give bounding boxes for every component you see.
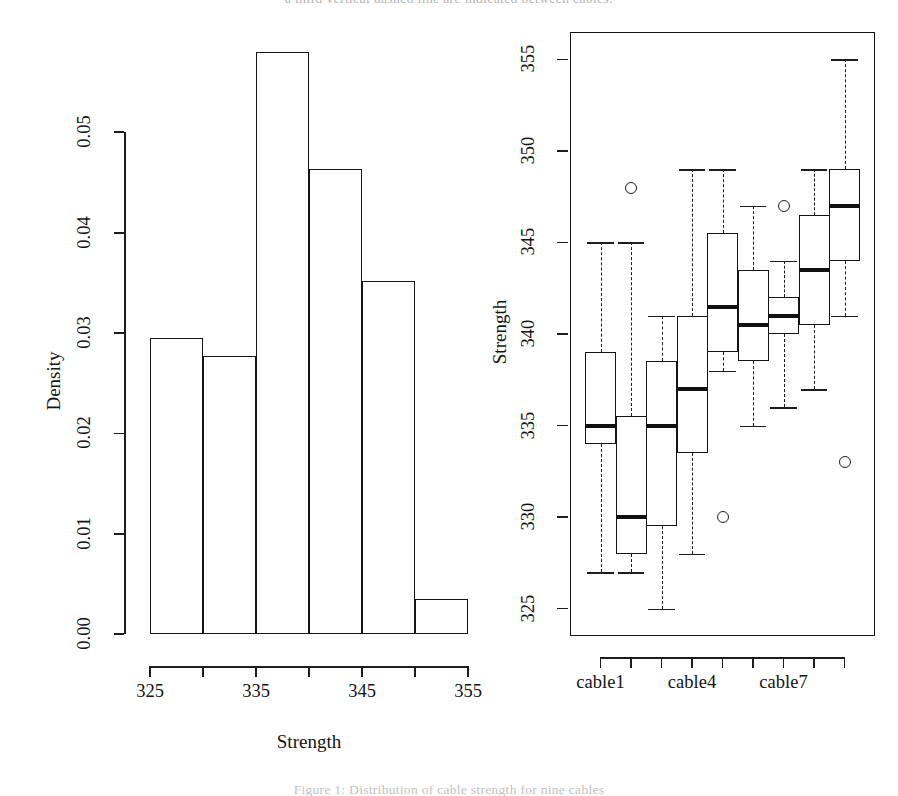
histogram-y-axis-line [124,132,126,634]
boxplot-x-tick [630,657,632,668]
boxplot-y-tick [557,242,568,244]
boxplot-outlier-point [839,456,851,468]
boxplot-x-tick [813,657,815,668]
boxplot-whisker-upper [692,169,693,315]
boxplot-whisker-lower [631,554,632,572]
boxplot-median-line [616,515,647,519]
boxplot-outlier-point [778,200,790,212]
boxplot-whisker-lower [601,444,602,572]
histogram-y-tick-label: 0.00 [74,608,95,660]
boxplot-whisker-cap-upper [679,169,705,171]
boxplot-whisker-upper [631,242,632,416]
boxplot-whisker-cap-lower [618,572,644,574]
histogram-x-tick-label: 335 [228,681,284,702]
boxplot-x-tick [691,657,693,668]
boxplot-whisker-cap-lower [587,572,613,574]
boxplot-whisker-cap-upper [740,206,766,208]
histogram-x-tick [149,666,151,677]
boxplot-median-line [768,314,799,318]
boxplot-whisker-lower [814,325,815,389]
histogram-y-tick-label: 0.01 [74,507,95,559]
boxplot-y-tick-label: 345 [518,219,539,265]
boxplot-box [646,361,677,526]
histogram-x-tick-label: 345 [334,681,390,702]
boxplot-whisker-cap-upper [770,261,796,263]
boxplot-whisker-cap-lower [740,426,766,428]
boxplot-box [585,352,616,444]
boxplot-x-tick [783,657,785,668]
boxplot-box [707,233,738,352]
boxplot-y-axis-label: Strength [489,252,511,412]
boxplot-whisker-lower [845,261,846,316]
histogram-x-tick [255,666,257,677]
histogram-y-tick-label: 0.05 [74,106,95,158]
boxplot-x-tick [600,657,602,668]
boxplot-whisker-cap-lower [831,316,857,318]
boxplot-whisker-upper [753,206,754,270]
histogram-x-tick [202,666,204,677]
boxplot-whisker-upper [662,316,663,362]
boxplot-y-tick-label: 340 [518,311,539,357]
boxplot-median-line [799,268,830,272]
boxplot-whisker-cap-upper [648,316,674,318]
histogram-bar [150,338,203,634]
boxplot-y-tick [557,59,568,61]
histogram-x-tick [308,666,310,677]
histogram-y-tick [114,533,124,535]
boxplot-x-tick [752,657,754,668]
boxplot-whisker-lower [753,361,754,425]
boxplot-median-line [585,424,616,428]
boxplot-whisker-cap-lower [709,371,735,373]
boxplot-box [677,316,708,453]
boxplot-y-tick-label: 325 [518,585,539,631]
boxplot-whisker-upper [845,59,846,169]
boxplot-box [616,416,647,553]
boxplot-whisker-cap-upper [709,169,735,171]
histogram-x-tick-label: 325 [122,681,178,702]
histogram-y-tick [114,433,124,435]
boxplot-box [738,270,769,362]
boxplot-whisker-cap-lower [648,609,674,611]
boxplot-x-tick-label: cable4 [647,672,737,693]
boxplot-whisker-lower [692,453,693,554]
histogram-y-tick [114,332,124,334]
histogram-x-tick [467,666,469,677]
boxplot-y-tick [557,333,568,335]
boxplot-median-line [829,204,860,208]
boxplot-whisker-upper [814,169,815,215]
histogram-x-tick [361,666,363,677]
boxplot-whisker-lower [784,334,785,407]
boxplot-y-tick-label: 330 [518,494,539,540]
histogram-bar [256,52,309,634]
boxplot-median-line [707,305,738,309]
histogram-y-tick-label: 0.03 [74,306,95,358]
histogram-bar [415,599,468,634]
boxplot-y-tick [557,516,568,518]
boxplot-median-line [646,424,677,428]
boxplot-whisker-upper [601,242,602,352]
boxplot-median-line [738,323,769,327]
histogram-x-tick [414,666,416,677]
boxplot-x-tick-label: cable1 [556,672,646,693]
boxplot-whisker-cap-lower [770,407,796,409]
histogram-x-axis-label: Strength [229,731,389,753]
boxplot-y-tick-label: 335 [518,402,539,448]
histogram-y-tick [114,232,124,234]
boxplot-whisker-upper [723,169,724,233]
boxplot-whisker-lower [723,352,724,370]
histogram-bar [203,356,256,634]
boxplot-box [829,169,860,261]
boxplot-y-tick-label: 350 [518,127,539,173]
histogram-y-axis-label: Density [43,301,65,461]
figure-caption-text: Figure 1: Distribution of cable strength… [0,782,898,796]
histogram-panel: 0.000.010.020.030.040.05 325335345355 De… [0,0,470,794]
boxplot-whisker-cap-upper [831,59,857,61]
boxplot-x-tick-label: cable7 [739,672,829,693]
boxplot-whisker-cap-upper [618,242,644,244]
boxplot-whisker-cap-lower [801,389,827,391]
histogram-y-tick [114,131,124,133]
boxplot-whisker-cap-upper [801,169,827,171]
boxplot-x-tick [844,657,846,668]
histogram-y-tick-label: 0.04 [74,206,95,258]
